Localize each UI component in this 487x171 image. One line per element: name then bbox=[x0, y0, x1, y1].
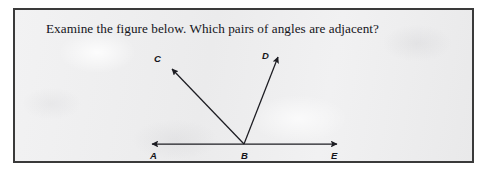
point-label-d: D bbox=[262, 51, 269, 61]
problem-card: Examine the figure below. Which pairs of… bbox=[13, 8, 474, 163]
point-label-b: B bbox=[241, 151, 248, 161]
point-label-a: A bbox=[150, 151, 157, 161]
point-label-e: E bbox=[331, 151, 337, 161]
point-label-c: C bbox=[154, 54, 161, 64]
figure-svg bbox=[15, 10, 474, 163]
ray-BC-segment bbox=[172, 69, 244, 144]
geometry-figure: A B E C D bbox=[15, 10, 474, 163]
ray-BD-segment bbox=[244, 57, 278, 144]
screenshot-root: Examine the figure below. Which pairs of… bbox=[0, 0, 487, 171]
